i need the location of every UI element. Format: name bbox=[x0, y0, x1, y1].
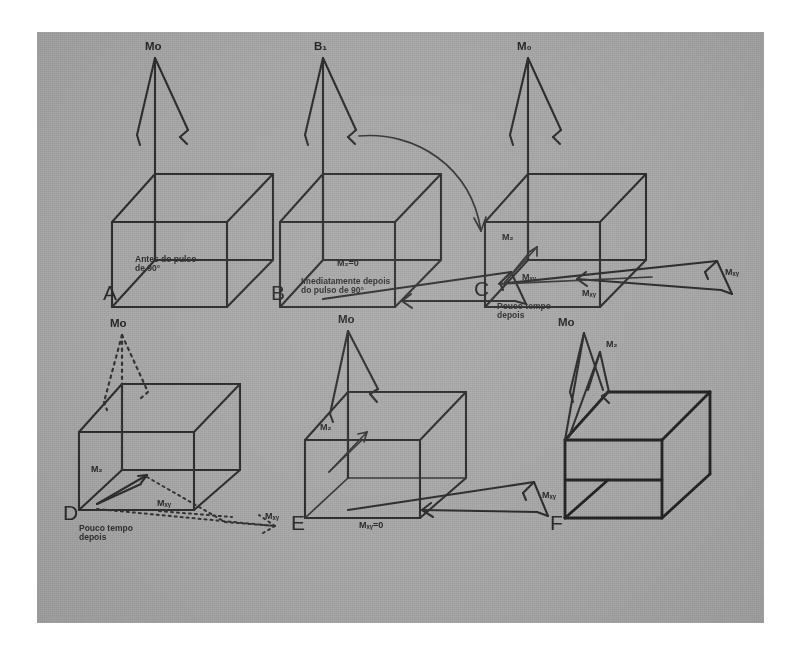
panel-d-m0-vector bbox=[104, 335, 148, 470]
panel-e-mxy-vector bbox=[348, 482, 548, 517]
scanned-figure-plate: Mo A Antes do pulso de 90° bbox=[37, 32, 764, 623]
panel-f-label-mz: M₂ bbox=[606, 339, 618, 349]
panel-c-label-mxy-2: Mₓᵧ bbox=[725, 267, 740, 277]
panel-d-letter: D bbox=[63, 501, 78, 524]
panel-f: Mo M₂ F bbox=[550, 316, 710, 534]
panel-d-cube bbox=[79, 384, 240, 510]
panel-d-label-mxy-2: Mₓᵧ bbox=[265, 511, 280, 521]
panel-b: B₁ M₂=0 Mₓᵧ B Imediatamente depois do pu… bbox=[271, 40, 537, 308]
panel-a-caption-line2: de 90° bbox=[135, 263, 161, 273]
panel-f-mz-vector bbox=[569, 352, 609, 437]
panel-c-label-mz: M₂ bbox=[502, 232, 514, 242]
panel-e: Mo M₂ Mₓᵧ=0 Mₓᵧ E bbox=[291, 313, 557, 534]
panel-f-m0-vector bbox=[565, 333, 603, 440]
panel-d-mz-vector bbox=[97, 475, 147, 504]
panel-d-label-m0: Mo bbox=[110, 317, 127, 329]
panel-e-cube bbox=[305, 392, 466, 518]
panel-e-label-m0: Mo bbox=[338, 313, 355, 325]
panel-d-caption-line2: depois bbox=[79, 532, 107, 542]
panel-c-caption-line2: depois bbox=[497, 310, 525, 320]
panel-a-m0-vector bbox=[137, 58, 188, 260]
panel-d: Mo M₂ Mₓᵧ Mₓᵧ D Pouco tempo depois bbox=[63, 317, 280, 542]
panel-d-label-mz: M₂ bbox=[91, 464, 103, 474]
panel-a-letter: A bbox=[103, 281, 117, 304]
panel-c-label-m0: M₀ bbox=[517, 40, 532, 52]
panel-a: Mo A Antes do pulso de 90° bbox=[103, 40, 273, 307]
panel-e-letter: E bbox=[291, 511, 305, 534]
panel-d-label-mxy-1: Mₓᵧ bbox=[157, 498, 172, 508]
panel-f-cube bbox=[565, 392, 710, 518]
panel-f-label-m0: Mo bbox=[558, 316, 575, 328]
panel-b-caption-line2: do pulso de 90° bbox=[301, 285, 365, 295]
panel-c-label-mxy-1: Mₓᵧ bbox=[582, 288, 597, 298]
panel-a-label-m0: Mo bbox=[145, 40, 162, 52]
panel-e-label-mxy-zero: Mₓᵧ=0 bbox=[359, 520, 383, 530]
figure-root: Mo A Antes do pulso de 90° bbox=[0, 0, 802, 652]
panel-b-label-mz: M₂=0 bbox=[337, 258, 359, 268]
panel-c-m0-vector bbox=[510, 58, 561, 260]
panel-e-label-mxy: Mₓᵧ bbox=[542, 490, 557, 500]
nmr-vector-diagram: Mo A Antes do pulso de 90° bbox=[37, 32, 764, 623]
panel-e-label-mz: M₂ bbox=[320, 422, 332, 432]
panel-a-cube bbox=[112, 174, 273, 307]
panel-b-rotation-arrow bbox=[359, 136, 486, 231]
panel-b-b1-vector bbox=[305, 58, 356, 260]
panel-f-letter: F bbox=[550, 511, 563, 534]
panel-b-label-b1: B₁ bbox=[314, 40, 327, 52]
panel-c-letter: C bbox=[474, 277, 489, 300]
panel-b-letter: B bbox=[271, 281, 285, 304]
